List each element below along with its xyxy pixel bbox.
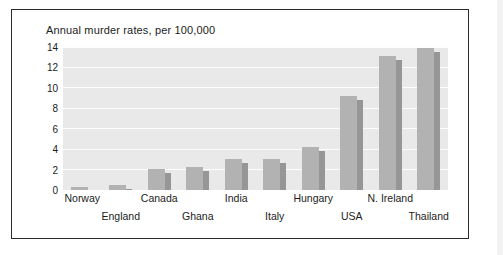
- y-tick-label: 2: [38, 164, 58, 175]
- x-tick-label: India: [225, 192, 248, 204]
- y-axis-tick-labels: 02468101214: [36, 47, 58, 190]
- plot-area-wrapper: [63, 47, 448, 190]
- bar-group[interactable]: [340, 47, 363, 190]
- bar-front-face: [186, 167, 203, 190]
- bar-side-face: [280, 163, 286, 190]
- bar-group[interactable]: [186, 47, 209, 190]
- bar-group[interactable]: [148, 47, 171, 190]
- bar-side-face: [126, 189, 132, 190]
- chart-title: Annual murder rates, per 100,000: [46, 24, 215, 36]
- x-tick-label: Hungary: [293, 192, 333, 204]
- bar-front-face: [417, 48, 434, 190]
- x-tick-label: N. Ireland: [367, 192, 413, 204]
- bar-side-face: [203, 171, 209, 190]
- y-tick-label: 12: [38, 62, 58, 73]
- bar-front-face: [148, 169, 165, 190]
- y-tick-label: 6: [38, 123, 58, 134]
- y-tick-label: 10: [38, 82, 58, 93]
- bar-group[interactable]: [71, 47, 94, 190]
- x-axis-tick-labels: NorwayEnglandCanadaGhanaIndiaItalyHungar…: [0, 192, 503, 236]
- plot-area: [63, 47, 448, 190]
- bar-group[interactable]: [109, 47, 132, 190]
- y-tick-label: 4: [38, 144, 58, 155]
- bar-group[interactable]: [302, 47, 325, 190]
- bar-front-face: [302, 147, 319, 190]
- bar-side-face: [357, 100, 363, 190]
- bar-front-face: [225, 159, 242, 190]
- bar-front-face: [379, 56, 396, 190]
- bar-front-face: [263, 159, 280, 190]
- x-tick-label: USA: [341, 210, 363, 222]
- x-tick-label: Thailand: [409, 210, 449, 222]
- y-tick-label: 8: [38, 103, 58, 114]
- bar-side-face: [434, 52, 440, 190]
- bar-group[interactable]: [379, 47, 402, 190]
- x-tick-label: Italy: [265, 210, 284, 222]
- bar-front-face: [109, 185, 126, 190]
- bar-group[interactable]: [417, 47, 440, 190]
- bar-group[interactable]: [225, 47, 248, 190]
- x-tick-label: England: [101, 210, 140, 222]
- x-tick-label: Canada: [141, 192, 178, 204]
- bar-side-face: [242, 163, 248, 190]
- x-tick-label: Ghana: [182, 210, 214, 222]
- bar-side-face: [396, 60, 402, 190]
- bar-side-face: [165, 173, 171, 190]
- bar-group[interactable]: [263, 47, 286, 190]
- y-tick-label: 14: [38, 42, 58, 53]
- x-tick-label: Norway: [64, 192, 100, 204]
- bar-front-face: [340, 96, 357, 190]
- bar-front-face: [71, 187, 88, 190]
- figure: Annual murder rates, per 100,000 0246810…: [0, 0, 503, 255]
- bar-side-face: [319, 151, 325, 190]
